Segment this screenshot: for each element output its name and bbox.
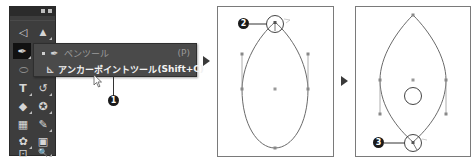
anchor-point-icon: ⊾ [46, 64, 54, 75]
eyedropper-tool-icon[interactable]: ✎ [34, 116, 52, 132]
menu-item-anchor-point-tool[interactable]: ⊾ アンカーポイントツール (Shift+C) [34, 61, 196, 77]
collapse-icon[interactable] [41, 9, 45, 13]
selection-tool-icon[interactable]: ▲ [34, 24, 52, 40]
step-arrow-icon [203, 56, 210, 66]
mouse-cursor-icon [93, 74, 105, 88]
live-paint-tool-icon[interactable]: ▣ [34, 133, 52, 149]
ellipse-tool-icon[interactable]: ⬭ [14, 62, 32, 78]
pointed-leaf-shape [356, 7, 472, 158]
menu-item-pen-tool[interactable]: ✒ ペンツール (P) [34, 45, 196, 61]
callout-badge-2: 2 [238, 18, 249, 29]
menu-item-shortcut: (P) [178, 48, 190, 58]
pen-icon: ✒ [49, 48, 60, 59]
step-arrow-icon [341, 76, 348, 86]
artboard-step-2: 3 [355, 6, 471, 157]
panel-grip[interactable] [10, 16, 55, 21]
pen-tool-flyout-menu: ✒ ペンツール (P) ⊾ アンカーポイントツール (Shift+C) [33, 43, 197, 77]
artboard-step-1: 2 [217, 6, 334, 157]
menu-item-label: アンカーポイントツール [58, 63, 157, 76]
artboard-tool-icon[interactable]: ⊡ [14, 149, 32, 157]
gradient-tool-icon[interactable]: ▦ [14, 116, 32, 132]
rotate-tool-icon[interactable]: ↺ [34, 80, 52, 96]
menu-item-label: ペンツール [64, 47, 178, 60]
pointed-ellipse-shape [218, 7, 335, 158]
direct-selection-tool-icon[interactable]: ◁ [14, 24, 32, 40]
type-tool-icon[interactable]: T [14, 80, 32, 96]
callout-badge-1: 1 [108, 95, 119, 106]
menu-item-shortcut: (Shift+C) [157, 64, 204, 74]
zoom-tool-icon[interactable]: 🔍 [34, 149, 52, 157]
shape-builder-tool-icon[interactable]: ✪ [34, 98, 52, 114]
selected-bullet-icon [42, 52, 45, 55]
panel-title-bar[interactable] [10, 7, 55, 16]
pen-tool-icon[interactable]: ✒ [13, 43, 31, 59]
eraser-tool-icon[interactable]: ◆ [14, 98, 32, 114]
close-icon[interactable] [48, 9, 52, 13]
callout-badge-3: 3 [373, 137, 384, 148]
tools-panel: ◁ ▲ ✒ ⬭ T ↺ ◆ ✪ ▦ ✎ ✿ ▣ ⊡ 🔍 [9, 6, 56, 156]
callout-leader-line [113, 76, 114, 96]
